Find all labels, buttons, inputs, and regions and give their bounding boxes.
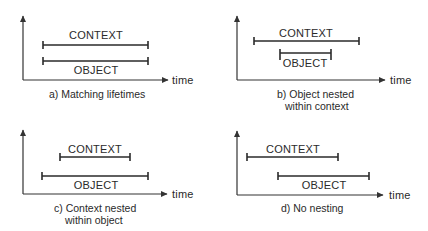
lifetime-diagram: time CONTEXT OBJECT a) Matching lifetime…: [0, 0, 428, 231]
object-lifetime-bar: OBJECT: [42, 172, 148, 191]
panel-caption: a) Matching lifetimes: [49, 88, 145, 100]
context-lifetime-bar: CONTEXT: [254, 27, 359, 45]
panel-b-object-nested-within-context: time CONTEXT OBJECT b) Object nested wit…: [237, 16, 412, 112]
panel-a-matching-lifetimes: time CONTEXT OBJECT a) Matching lifetime…: [23, 16, 194, 100]
panel-caption-line-2: within object: [64, 214, 123, 226]
object-lifetime-bar: OBJECT: [278, 172, 369, 191]
time-axis-label: time: [389, 189, 411, 201]
object-lifetime-bar: OBJECT: [43, 57, 148, 76]
panel-d-no-nesting: time CONTEXT OBJECT d) No nesting: [237, 131, 411, 214]
panel-caption-line-1: b) Object nested: [277, 88, 354, 100]
panel-caption-line-2: within context: [284, 100, 349, 112]
object-lifetime-bar: OBJECT: [280, 49, 331, 69]
object-label: OBJECT: [302, 179, 347, 191]
object-label: OBJECT: [283, 57, 328, 69]
time-axis-label: time: [172, 74, 194, 86]
object-label: OBJECT: [74, 179, 119, 191]
panel-caption: d) No nesting: [281, 202, 344, 214]
panel-caption-line-1: c) Context nested: [54, 202, 136, 214]
context-lifetime-bar: CONTEXT: [43, 29, 148, 49]
panel-c-context-nested-within-object: time CONTEXT OBJECT c) Context nested wi…: [23, 130, 194, 226]
object-label: OBJECT: [74, 64, 119, 76]
context-lifetime-bar: CONTEXT: [247, 143, 338, 161]
context-label: CONTEXT: [279, 27, 333, 39]
context-label: CONTEXT: [68, 143, 122, 155]
time-axis-label: time: [172, 188, 194, 200]
context-label: CONTEXT: [266, 143, 320, 155]
context-lifetime-bar: CONTEXT: [60, 143, 130, 161]
time-axis-label: time: [390, 74, 412, 86]
context-label: CONTEXT: [69, 29, 123, 41]
